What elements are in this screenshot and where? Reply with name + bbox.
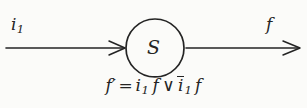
equation-or-operator: ∨: [160, 75, 178, 95]
input-label-subscript: 1: [16, 22, 24, 36]
equation-equals-sign: =: [116, 75, 135, 95]
state-node-label: S: [0, 38, 307, 57]
equation-term2-subscript: 1: [184, 83, 192, 97]
state-diagram-figure: i1 S f f′=i1f∨i1f: [0, 0, 307, 108]
output-signal-label: f: [266, 16, 272, 33]
input-signal-label: i1: [11, 16, 24, 36]
transition-equation: f′=i1f∨i1f: [0, 76, 307, 97]
equation-term2-variable: f: [195, 75, 202, 95]
equation-term1-subscript: 1: [141, 83, 149, 97]
equation-term1-negated-f: f: [152, 76, 160, 95]
